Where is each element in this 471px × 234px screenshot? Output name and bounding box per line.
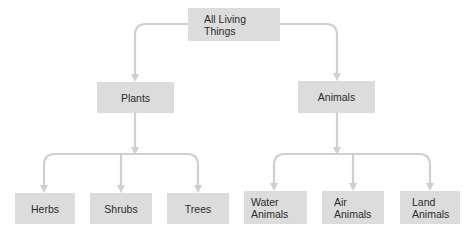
node-land-animals: Land Animals [400, 191, 460, 224]
node-animals: Animals [298, 81, 375, 113]
node-label: Land Animals [412, 196, 449, 220]
node-label: All Living Things [204, 13, 246, 37]
node-air-animals: Air Animals [322, 191, 384, 224]
node-label: Shrubs [104, 203, 137, 215]
node-label: Trees [185, 203, 211, 215]
node-label: Herbs [31, 203, 59, 215]
node-water-animals: Water Animals [244, 191, 307, 224]
node-label: Air Animals [334, 196, 371, 220]
node-label: Animals [318, 91, 355, 103]
node-shrubs: Shrubs [90, 193, 152, 224]
node-herbs: Herbs [15, 193, 75, 224]
node-trees: Trees [167, 193, 229, 224]
node-plants: Plants [97, 82, 174, 113]
node-label: Water Animals [251, 196, 288, 220]
node-label: Plants [121, 92, 150, 104]
node-all-living-things: All Living Things [188, 8, 280, 41]
